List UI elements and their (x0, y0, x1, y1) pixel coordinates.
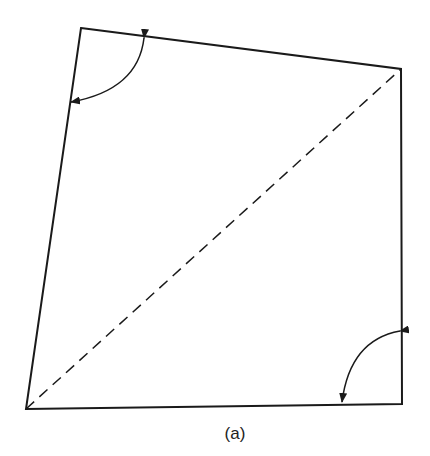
quadrilateral-outline (26, 28, 402, 409)
angle-arc-top-left (71, 38, 144, 102)
dashed-diagonal (26, 69, 401, 409)
caption-text: (a) (225, 424, 246, 443)
angle-arc-bottom-right (342, 331, 400, 402)
figure-caption: (a) (0, 424, 430, 444)
quadrilateral-diagram (0, 0, 430, 456)
